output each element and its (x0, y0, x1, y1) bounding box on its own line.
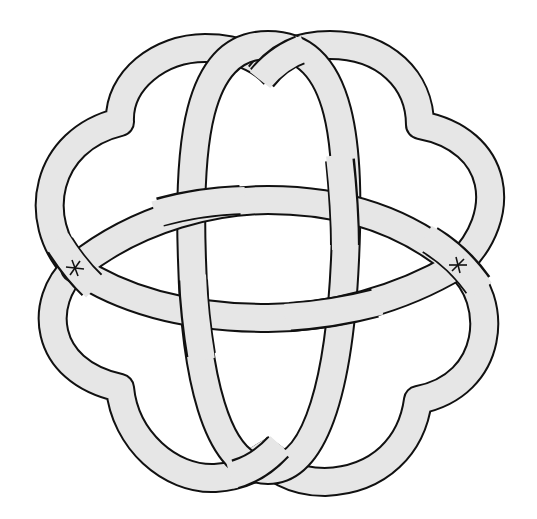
band-base (50, 45, 490, 482)
knot-diagram (0, 0, 537, 519)
